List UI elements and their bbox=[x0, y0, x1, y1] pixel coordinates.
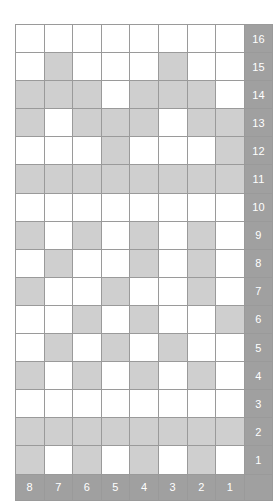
pattern-cell-filled[interactable] bbox=[187, 221, 216, 249]
pattern-cell-empty[interactable] bbox=[187, 193, 216, 221]
pattern-cell-filled[interactable] bbox=[101, 418, 130, 446]
pattern-cell-empty[interactable] bbox=[44, 362, 73, 390]
pattern-cell-filled[interactable] bbox=[187, 362, 216, 390]
pattern-cell-filled[interactable] bbox=[216, 109, 245, 137]
pattern-cell-empty[interactable] bbox=[130, 390, 159, 418]
pattern-cell-filled[interactable] bbox=[16, 165, 45, 193]
pattern-cell-filled[interactable] bbox=[130, 362, 159, 390]
pattern-cell-filled[interactable] bbox=[187, 249, 216, 277]
pattern-cell-empty[interactable] bbox=[101, 53, 130, 81]
pattern-cell-empty[interactable] bbox=[16, 390, 45, 418]
pattern-cell-filled[interactable] bbox=[187, 109, 216, 137]
pattern-cell-empty[interactable] bbox=[101, 25, 130, 53]
pattern-cell-empty[interactable] bbox=[16, 137, 45, 165]
pattern-cell-empty[interactable] bbox=[187, 25, 216, 53]
pattern-cell-empty[interactable] bbox=[44, 277, 73, 305]
pattern-cell-filled[interactable] bbox=[130, 418, 159, 446]
pattern-cell-empty[interactable] bbox=[73, 25, 102, 53]
pattern-cell-filled[interactable] bbox=[158, 334, 187, 362]
pattern-cell-empty[interactable] bbox=[158, 362, 187, 390]
pattern-cell-empty[interactable] bbox=[73, 137, 102, 165]
pattern-cell-filled[interactable] bbox=[158, 53, 187, 81]
pattern-cell-empty[interactable] bbox=[216, 81, 245, 109]
pattern-cell-empty[interactable] bbox=[216, 390, 245, 418]
pattern-cell-filled[interactable] bbox=[130, 249, 159, 277]
pattern-cell-empty[interactable] bbox=[130, 53, 159, 81]
pattern-cell-empty[interactable] bbox=[101, 305, 130, 333]
pattern-cell-filled[interactable] bbox=[187, 277, 216, 305]
pattern-cell-filled[interactable] bbox=[16, 362, 45, 390]
pattern-cell-empty[interactable] bbox=[16, 249, 45, 277]
pattern-cell-empty[interactable] bbox=[158, 446, 187, 474]
pattern-cell-empty[interactable] bbox=[158, 137, 187, 165]
pattern-cell-empty[interactable] bbox=[130, 137, 159, 165]
pattern-cell-filled[interactable] bbox=[216, 418, 245, 446]
pattern-cell-empty[interactable] bbox=[130, 25, 159, 53]
pattern-cell-empty[interactable] bbox=[216, 362, 245, 390]
pattern-cell-empty[interactable] bbox=[216, 446, 245, 474]
pattern-cell-empty[interactable] bbox=[16, 25, 45, 53]
pattern-cell-filled[interactable] bbox=[130, 305, 159, 333]
pattern-cell-empty[interactable] bbox=[158, 25, 187, 53]
pattern-cell-filled[interactable] bbox=[73, 446, 102, 474]
pattern-cell-filled[interactable] bbox=[73, 305, 102, 333]
pattern-cell-filled[interactable] bbox=[16, 277, 45, 305]
pattern-cell-filled[interactable] bbox=[158, 418, 187, 446]
pattern-cell-empty[interactable] bbox=[101, 81, 130, 109]
pattern-cell-empty[interactable] bbox=[73, 249, 102, 277]
pattern-cell-empty[interactable] bbox=[16, 53, 45, 81]
pattern-cell-empty[interactable] bbox=[158, 193, 187, 221]
pattern-cell-filled[interactable] bbox=[73, 81, 102, 109]
pattern-cell-filled[interactable] bbox=[130, 221, 159, 249]
pattern-cell-filled[interactable] bbox=[101, 334, 130, 362]
pattern-cell-empty[interactable] bbox=[158, 305, 187, 333]
pattern-cell-empty[interactable] bbox=[130, 334, 159, 362]
pattern-cell-empty[interactable] bbox=[187, 137, 216, 165]
pattern-cell-empty[interactable] bbox=[44, 137, 73, 165]
pattern-cell-empty[interactable] bbox=[187, 390, 216, 418]
pattern-cell-empty[interactable] bbox=[44, 25, 73, 53]
pattern-cell-empty[interactable] bbox=[101, 446, 130, 474]
pattern-cell-filled[interactable] bbox=[101, 277, 130, 305]
pattern-cell-filled[interactable] bbox=[130, 165, 159, 193]
pattern-cell-filled[interactable] bbox=[216, 165, 245, 193]
pattern-cell-filled[interactable] bbox=[44, 53, 73, 81]
pattern-cell-empty[interactable] bbox=[187, 305, 216, 333]
pattern-cell-empty[interactable] bbox=[16, 193, 45, 221]
pattern-cell-filled[interactable] bbox=[187, 418, 216, 446]
pattern-cell-empty[interactable] bbox=[187, 53, 216, 81]
pattern-cell-filled[interactable] bbox=[130, 446, 159, 474]
pattern-cell-filled[interactable] bbox=[44, 249, 73, 277]
pattern-cell-empty[interactable] bbox=[216, 249, 245, 277]
pattern-cell-empty[interactable] bbox=[44, 390, 73, 418]
pattern-cell-empty[interactable] bbox=[101, 193, 130, 221]
pattern-cell-filled[interactable] bbox=[73, 109, 102, 137]
pattern-cell-filled[interactable] bbox=[158, 81, 187, 109]
pattern-cell-empty[interactable] bbox=[101, 249, 130, 277]
pattern-cell-empty[interactable] bbox=[101, 390, 130, 418]
pattern-cell-empty[interactable] bbox=[216, 277, 245, 305]
pattern-cell-filled[interactable] bbox=[16, 446, 45, 474]
pattern-cell-empty[interactable] bbox=[216, 53, 245, 81]
pattern-cell-empty[interactable] bbox=[16, 334, 45, 362]
pattern-cell-filled[interactable] bbox=[73, 418, 102, 446]
pattern-cell-empty[interactable] bbox=[158, 109, 187, 137]
pattern-cell-filled[interactable] bbox=[187, 446, 216, 474]
pattern-cell-empty[interactable] bbox=[44, 109, 73, 137]
pattern-cell-empty[interactable] bbox=[187, 334, 216, 362]
pattern-cell-filled[interactable] bbox=[73, 165, 102, 193]
pattern-cell-filled[interactable] bbox=[44, 334, 73, 362]
pattern-cell-filled[interactable] bbox=[158, 165, 187, 193]
pattern-cell-filled[interactable] bbox=[130, 81, 159, 109]
pattern-cell-filled[interactable] bbox=[73, 221, 102, 249]
pattern-cell-filled[interactable] bbox=[187, 165, 216, 193]
pattern-cell-filled[interactable] bbox=[16, 109, 45, 137]
pattern-cell-empty[interactable] bbox=[44, 305, 73, 333]
pattern-cell-empty[interactable] bbox=[216, 221, 245, 249]
pattern-cell-empty[interactable] bbox=[216, 193, 245, 221]
pattern-cell-empty[interactable] bbox=[158, 249, 187, 277]
pattern-cell-empty[interactable] bbox=[216, 334, 245, 362]
pattern-cell-filled[interactable] bbox=[44, 81, 73, 109]
pattern-cell-filled[interactable] bbox=[44, 165, 73, 193]
pattern-cell-filled[interactable] bbox=[44, 418, 73, 446]
